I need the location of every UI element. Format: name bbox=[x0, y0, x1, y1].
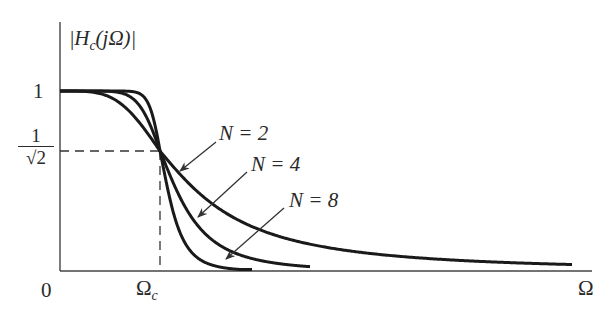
curve-n2 bbox=[60, 91, 572, 265]
arrow-n8 bbox=[226, 208, 284, 259]
x-tick-cutoff: Ωc bbox=[136, 276, 158, 304]
curve-n8 bbox=[60, 91, 252, 270]
label-n4: N = 4 bbox=[251, 152, 300, 177]
y-axis-title: |Hc(jΩ)| bbox=[70, 26, 136, 54]
y-title-rest: (jΩ)| bbox=[96, 26, 137, 50]
frac-denominator: √2 bbox=[18, 147, 54, 169]
x-axis-title: Ω bbox=[578, 276, 594, 301]
label-n8: N = 8 bbox=[289, 188, 338, 213]
arrow-n2 bbox=[180, 142, 216, 171]
y-tick-half-power: 1 √2 bbox=[18, 126, 54, 169]
frac-numerator: 1 bbox=[18, 126, 54, 147]
x-tick-zero: 0 bbox=[41, 278, 52, 303]
y-tick-one: 1 bbox=[33, 79, 44, 104]
omega-c-main: Ω bbox=[136, 276, 152, 300]
label-n2: N = 2 bbox=[219, 121, 268, 146]
y-title-h: H bbox=[74, 26, 89, 50]
omega-c-sub: c bbox=[152, 288, 158, 303]
